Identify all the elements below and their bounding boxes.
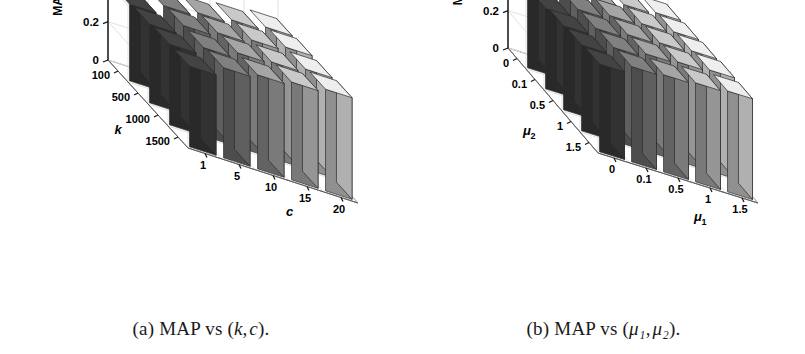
caption-a-text: MAP vs (159, 318, 222, 339)
z-tick-label: 0.2 (483, 5, 499, 17)
caption-a-var1: k (234, 318, 243, 339)
y-tick (114, 71, 118, 73)
y-tick (154, 115, 158, 117)
x-axis-title: c (286, 204, 294, 219)
z-tick-label: 0 (493, 42, 499, 54)
caption-b-var1: μ₁ (629, 318, 646, 339)
y-tick (513, 59, 517, 61)
z-axis-title: MAP (451, 0, 465, 5)
x-tick-label: 10 (265, 181, 277, 193)
z-tick (503, 48, 508, 50)
chart-a-svg: 00.20.40.6MAP10050010001500k15101520c (0, 0, 402, 300)
y-tick-label: 500 (112, 91, 130, 103)
y-tick-label: 100 (92, 69, 110, 81)
caption-b-var2: μ₂ (652, 318, 669, 339)
x-tick-label: 0.1 (636, 173, 651, 185)
y-tick-label: 1 (557, 120, 563, 132)
x-tick-label: 0.5 (668, 183, 683, 195)
caption-b: (b) MAP vs (μ₁, μ₂). (402, 318, 805, 340)
y-tick-label: 0 (503, 57, 509, 69)
caption-b-text: MAP vs (554, 318, 617, 339)
chart-a-plot: 00.20.40.6MAP10050010001500k15101520c (0, 0, 402, 300)
caption-a-var2: c (249, 318, 258, 339)
y-tick (174, 137, 178, 139)
caption-b-prefix: (b) (527, 318, 550, 339)
svg-text:2: 2 (530, 131, 535, 141)
y-tick (134, 93, 138, 95)
z-tick-label: 0 (93, 54, 99, 66)
y-tick-label: 1500 (146, 135, 170, 147)
x-tick-label: 1 (705, 193, 711, 205)
chart-b-svg: 00.20.40.6MAP00.10.511.5μ200.10.511.5μ1 (402, 0, 805, 300)
y-axis-title: μ2 (522, 123, 535, 141)
x-tick-label: 5 (234, 170, 240, 182)
y-axis-title: k (114, 122, 122, 137)
panel-a: 00.20.40.6MAP10050010001500k15101520c (a… (0, 0, 402, 354)
y-tick-label: 0.5 (530, 99, 545, 111)
y-tick (549, 101, 553, 103)
y-tick-label: 1.5 (566, 141, 581, 153)
x-tick-label: 0 (609, 163, 615, 175)
y-tick-label: 0.1 (512, 78, 527, 90)
caption-a-prefix: (a) (133, 318, 155, 339)
y-tick (567, 122, 571, 124)
z-tick (103, 60, 108, 62)
x-axis-title: μ1 (693, 209, 706, 227)
x-tick-label: 15 (299, 192, 311, 204)
svg-text:1: 1 (701, 217, 706, 227)
bar-group (514, 0, 753, 200)
chart-b-plot: 00.20.40.6MAP00.10.511.5μ200.10.511.5μ1 (402, 0, 805, 300)
z-axis-title: MAP (51, 0, 65, 16)
figure-container: 00.20.40.6MAP10050010001500k15101520c (a… (0, 0, 805, 354)
caption-a: (a) MAP vs (k, c). (0, 318, 402, 340)
x-tick-label: 1.5 (732, 203, 747, 215)
y-tick (531, 80, 535, 82)
y-tick (585, 143, 589, 145)
x-tick-label: 20 (333, 203, 345, 215)
y-tick-label: 1000 (126, 113, 150, 125)
x-tick-label: 1 (200, 159, 206, 171)
z-tick-label: 0.2 (83, 16, 99, 28)
panel-b: 00.20.40.6MAP00.10.511.5μ200.10.511.5μ1 … (402, 0, 805, 354)
